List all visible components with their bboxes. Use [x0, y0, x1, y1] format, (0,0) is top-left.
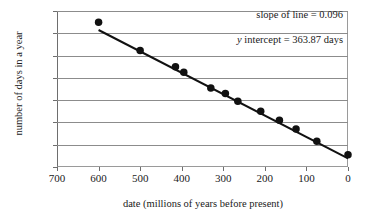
data-points: [95, 18, 352, 158]
x-tick-label: 0: [323, 172, 373, 184]
chart-figure: number of days in a year date (millions …: [0, 0, 385, 218]
plot-area: 360370380390400410420430 700600500400300…: [57, 11, 348, 167]
data-point: [207, 84, 215, 92]
data-series: [57, 11, 348, 167]
data-point: [234, 98, 242, 106]
data-point: [95, 18, 103, 26]
x-tick-mark: [182, 167, 183, 171]
data-point: [172, 63, 180, 71]
x-tick-mark: [140, 167, 141, 171]
x-tick-mark: [99, 167, 100, 171]
y-axis-title: number of days in a year: [13, 4, 24, 164]
x-tick-mark: [348, 167, 349, 171]
data-point: [136, 47, 144, 55]
x-tick-mark: [306, 167, 307, 171]
data-point: [180, 69, 188, 77]
x-tick-mark: [57, 167, 58, 171]
x-tick-mark: [223, 167, 224, 171]
data-point: [222, 90, 230, 98]
data-point: [313, 138, 321, 146]
x-axis-title: date (millions of years before present): [57, 198, 349, 209]
data-point: [257, 108, 265, 116]
data-point: [292, 125, 300, 133]
x-tick-mark: [265, 167, 266, 171]
data-point: [276, 116, 284, 124]
data-point: [344, 151, 352, 159]
